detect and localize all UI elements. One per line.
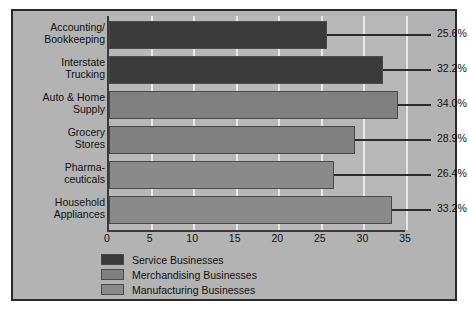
bar-row: Pharma- ceuticals26.4% <box>109 158 405 193</box>
category-label: Household Appliances <box>13 193 105 220</box>
bar <box>109 91 398 119</box>
legend-label: Service Businesses <box>132 254 224 266</box>
value-leader-line <box>392 209 431 211</box>
x-tick-label-20: 20 <box>271 232 283 244</box>
bar-row: Interstate Trucking32.2% <box>109 53 405 88</box>
legend-swatch <box>101 269 124 280</box>
bar <box>109 21 327 49</box>
value-label: 34.0% <box>437 97 467 109</box>
x-tick-label-35: 35 <box>399 232 411 244</box>
value-label: 33.2% <box>437 202 467 214</box>
value-label: 25.6% <box>437 27 467 39</box>
x-axis: 05101520253035 <box>107 232 405 248</box>
x-tick-label-5: 5 <box>147 232 153 244</box>
legend-swatch <box>101 284 124 295</box>
x-tick-label-0: 0 <box>104 232 110 244</box>
category-label: Accounting/ Bookkeeping <box>13 18 105 45</box>
x-tick-label-15: 15 <box>229 232 241 244</box>
bar-row: Household Appliances33.2% <box>109 193 405 228</box>
category-label: Auto & Home Supply <box>13 88 105 115</box>
plot-area: Accounting/ Bookkeeping25.6%Interstate T… <box>107 16 405 232</box>
x-tick-label-30: 30 <box>357 232 369 244</box>
bar <box>109 161 334 189</box>
value-leader-line <box>355 139 431 141</box>
category-label: Grocery Stores <box>13 123 105 150</box>
value-leader-line <box>383 69 431 71</box>
legend-label: Manufacturing Businesses <box>132 284 255 296</box>
x-tick-label-10: 10 <box>186 232 198 244</box>
value-leader-line <box>334 174 431 176</box>
bar <box>109 56 383 84</box>
legend-item: Service Businesses <box>101 252 257 267</box>
bar <box>109 196 392 224</box>
category-label: Pharma- ceuticals <box>13 158 105 185</box>
bar-row: Accounting/ Bookkeeping25.6% <box>109 18 405 53</box>
chart-legend: Service BusinessesMerchandising Business… <box>101 252 257 297</box>
bar-row: Auto & Home Supply34.0% <box>109 88 405 123</box>
chart-figure: Accounting/ Bookkeeping25.6%Interstate T… <box>11 9 457 301</box>
value-label: 32.2% <box>437 62 467 74</box>
x-tick-label-25: 25 <box>314 232 326 244</box>
bar-row: Grocery Stores28.9% <box>109 123 405 158</box>
value-leader-line <box>327 34 431 36</box>
legend-swatch <box>101 254 124 265</box>
value-leader-line <box>398 104 431 106</box>
bar <box>109 126 355 154</box>
value-label: 26.4% <box>437 167 467 179</box>
legend-item: Merchandising Businesses <box>101 267 257 282</box>
category-label: Interstate Trucking <box>13 53 105 80</box>
legend-label: Merchandising Businesses <box>132 269 257 281</box>
legend-item: Manufacturing Businesses <box>101 282 257 297</box>
gridline-35 <box>406 16 408 230</box>
value-label: 28.9% <box>437 132 467 144</box>
